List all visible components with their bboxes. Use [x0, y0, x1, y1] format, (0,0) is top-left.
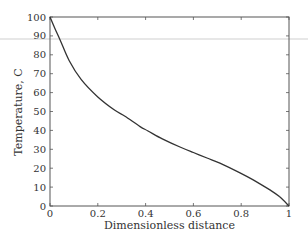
x-axis-label: Dimensionless distance	[104, 219, 235, 232]
y-tick-label: 100	[27, 12, 46, 23]
x-tick-label: 0.8	[233, 208, 249, 219]
x-tick-labels: 00.20.40.60.81	[47, 208, 292, 219]
temperature-chart: 00.20.40.60.81 0102030405060708090100 Di…	[0, 0, 308, 239]
y-tick-label: 0	[40, 201, 46, 212]
plot-frame	[50, 17, 289, 206]
x-tick-label: 0.2	[90, 208, 106, 219]
y-tick-label: 20	[33, 163, 46, 174]
temperature-curve	[50, 17, 289, 206]
x-tick-label: 0.4	[138, 208, 154, 219]
y-tick-label: 50	[33, 106, 46, 117]
y-tick-label: 80	[33, 49, 46, 60]
y-tick-label: 60	[33, 87, 46, 98]
y-tick-label: 70	[33, 68, 46, 79]
y-tick-label: 10	[33, 182, 46, 193]
y-tick-label: 30	[33, 144, 46, 155]
y-tick-label: 40	[33, 125, 46, 136]
x-tick-label: 1	[286, 208, 292, 219]
x-tick-label: 0	[47, 208, 53, 219]
x-tick-label: 0.6	[185, 208, 201, 219]
y-axis-label: Temperature, C	[12, 68, 25, 155]
y-tick-label: 90	[33, 30, 46, 41]
axis-ticks	[50, 17, 289, 206]
y-tick-labels: 0102030405060708090100	[27, 12, 46, 212]
